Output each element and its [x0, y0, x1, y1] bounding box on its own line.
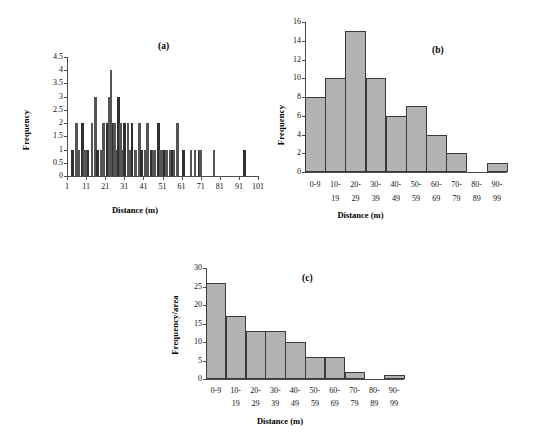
- x-tick-mark: [67, 177, 68, 180]
- panel-b-x-axis-label: Distance (m): [222, 210, 499, 220]
- bar: [305, 357, 325, 379]
- bar: [226, 316, 246, 379]
- figure-page: { "figure": { "panels": [ { "id": "a", "…: [0, 0, 537, 439]
- bar: [134, 150, 137, 176]
- y-tick-mark: [64, 70, 67, 71]
- y-tick-label: 3: [35, 92, 63, 101]
- y-tick-mark: [64, 163, 67, 164]
- y-tick-label: 0: [275, 167, 301, 176]
- y-tick-label: 10: [176, 337, 202, 346]
- bar: [406, 106, 427, 172]
- y-tick-mark: [302, 60, 305, 61]
- y-tick-mark: [64, 123, 67, 124]
- y-tick-mark: [302, 22, 305, 23]
- y-tick-label: 1: [35, 145, 63, 154]
- y-tick-label: 30: [176, 263, 202, 272]
- bar: [265, 331, 285, 379]
- y-tick-mark: [64, 57, 67, 58]
- panel-b-plot-area: 0246810121416 0-910-1920-2930-3940-4950-…: [260, 0, 537, 228]
- panel-c-plot-area: 051015202530 0-910-1920-2930-3940-4950-5…: [150, 258, 420, 439]
- x-tick-label-bottom: 99: [376, 399, 412, 408]
- y-tick-label: 8: [275, 92, 301, 101]
- panel-a-plot-area: 00.511.522.533.544.5 1112131415161718191…: [0, 0, 270, 228]
- bar: [165, 150, 168, 176]
- x-tick-mark: [163, 177, 164, 180]
- bar: [199, 150, 202, 176]
- x-tick-mark: [220, 177, 221, 180]
- bar: [173, 150, 176, 176]
- panel-c-x-axis: [206, 379, 404, 380]
- x-tick-mark: [239, 177, 240, 180]
- y-tick-label: 2.5: [35, 105, 63, 114]
- bar: [386, 116, 407, 172]
- bar: [246, 331, 266, 379]
- bar: [305, 97, 326, 172]
- bar: [140, 150, 143, 176]
- bar: [123, 123, 126, 176]
- y-tick-mark: [64, 97, 67, 98]
- y-tick-label: 6: [275, 111, 301, 120]
- x-tick-mark: [143, 177, 144, 180]
- y-tick-label: 4: [275, 130, 301, 139]
- y-tick-label: 0.5: [35, 158, 63, 167]
- x-tick-mark: [86, 177, 87, 180]
- bar: [345, 31, 366, 172]
- y-tick-mark: [302, 41, 305, 42]
- bar: [345, 372, 365, 379]
- y-tick-mark: [203, 268, 206, 269]
- y-tick-label: 16: [275, 17, 301, 26]
- y-tick-label: 4: [35, 65, 63, 74]
- bar: [91, 123, 94, 176]
- y-tick-label: 14: [275, 36, 301, 45]
- bar: [87, 150, 90, 176]
- bar: [384, 375, 404, 379]
- bar: [77, 150, 80, 176]
- bar: [190, 150, 193, 176]
- y-tick-mark: [64, 110, 67, 111]
- y-tick-label: 10: [275, 73, 301, 82]
- y-tick-mark: [64, 150, 67, 151]
- bar: [213, 150, 216, 176]
- y-tick-label: 15: [176, 319, 202, 328]
- y-tick-label: 5: [176, 356, 202, 365]
- y-tick-label: 3.5: [35, 78, 63, 87]
- bar: [71, 150, 74, 176]
- y-tick-mark: [203, 379, 206, 380]
- y-tick-mark: [302, 78, 305, 79]
- bar: [446, 153, 467, 172]
- panel-b: (b) Frequency 0246810121416 0-910-1920-2…: [260, 0, 537, 228]
- bar: [325, 357, 345, 379]
- x-tick-mark: [201, 177, 202, 180]
- bar: [131, 123, 134, 176]
- x-tick-label-bottom: 99: [479, 194, 515, 203]
- y-tick-mark: [64, 83, 67, 84]
- y-tick-label: 20: [176, 300, 202, 309]
- x-tick-mark: [258, 177, 259, 180]
- x-tick-mark: [124, 177, 125, 180]
- x-tick-mark: [182, 177, 183, 180]
- bar: [96, 150, 99, 176]
- bar: [285, 342, 305, 379]
- bar: [243, 150, 246, 176]
- y-tick-label: 0: [35, 171, 63, 180]
- bar: [194, 150, 197, 176]
- y-tick-mark: [64, 136, 67, 137]
- bar: [146, 123, 149, 176]
- y-tick-label: 12: [275, 55, 301, 64]
- panel-c-x-axis-label: Distance (m): [145, 416, 415, 426]
- bar: [102, 123, 105, 176]
- x-tick-label-top: 90-: [479, 180, 515, 189]
- panel-a: (a) Frequency 00.511.522.533.544.5 11121…: [0, 0, 270, 228]
- y-tick-label: 0: [176, 374, 202, 383]
- bar: [182, 150, 185, 176]
- y-tick-label: 2: [35, 118, 63, 127]
- y-tick-label: 25: [176, 282, 202, 291]
- bar: [206, 283, 226, 379]
- bar: [176, 123, 179, 176]
- bar: [426, 135, 447, 173]
- x-tick-label-top: 90-: [376, 386, 412, 395]
- panel-c: (c) Frequency/area 051015202530 0-910-19…: [150, 258, 420, 439]
- bar: [366, 78, 387, 172]
- y-tick-mark: [302, 172, 305, 173]
- bar: [487, 163, 508, 172]
